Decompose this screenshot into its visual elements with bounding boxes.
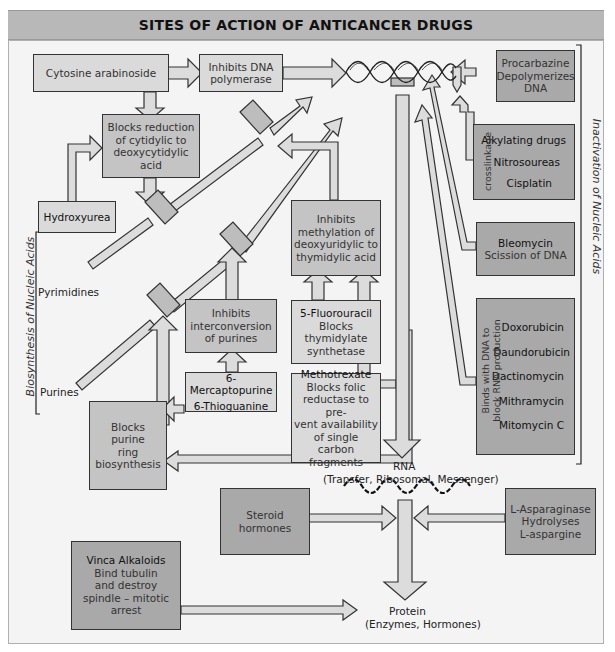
arrow-interconversion-up (218, 248, 246, 300)
box-blocks-reduction-cytidylic: Blocks reduction of cytidylic to deoxycy… (102, 114, 200, 178)
crosslink-notch-icon (453, 67, 461, 92)
label-protein: Protein (389, 605, 426, 617)
arrow-cytosine-to-polymerase (168, 59, 202, 87)
label-biosynthesis-nucleic-acids: Biosynthesis of Nucleic Acids (24, 232, 37, 402)
box-mercaptopurine-thioguanine: 6-Mercaptopurine 6-Thioguanine (185, 372, 277, 412)
label-rna-types: (Transfer, Ribosomal, Messenger) (323, 473, 499, 485)
box-cytosine-arabinoside: Cytosine arabinoside (33, 54, 169, 92)
box-bleomycin: Bleomycin Scission of DNA (476, 222, 575, 276)
arrow-steroid-to-protein (309, 506, 396, 530)
box-5-fluorouracil: 5-Fluorouracil Blocks thymidylate synthe… (291, 300, 381, 364)
binds-dna-label-line1: Binds with DNA to (480, 316, 491, 426)
label-inactivation-nucleic-acids: Inactivation of Nucleic Acids (590, 107, 603, 287)
arrow-dna-to-rna (384, 78, 420, 458)
label-pyrimidines: Pyrimidines (38, 286, 99, 298)
box-vinca-alkaloids: Vinca Alkaloids Bind tubulin and destroy… (71, 541, 181, 630)
box-inhibits-dna-polymerase: Inhibits DNA polymerase (199, 54, 283, 92)
box-blocks-purine-ring: Blocks purine ring biosynthesis (89, 401, 167, 490)
arrow-polymerase-to-dna (283, 59, 346, 87)
box-inhibits-methylation: Inhibits methylation of deoxyuridylic to… (291, 200, 381, 276)
box-inhibits-interconversion-purines: Inhibits interconversion of purines (185, 299, 277, 353)
arrow-vinca-to-protein (181, 600, 357, 620)
box-l-asparaginase: L-Asparaginase Hydrolyses L-aspargine (505, 488, 596, 555)
label-protein-types: (Enzymes, Hormones) (365, 618, 481, 630)
arrow-asparaginase-to-protein (414, 506, 505, 530)
crosslinkage-label: crosslinkage (482, 127, 493, 197)
box-procarbazine: Procarbazine Depolymerizes DNA (496, 50, 575, 102)
label-rna: RNA (393, 460, 415, 472)
box-steroid-hormones: Steroid hormones (220, 488, 310, 555)
box-hydroxyurea: Hydroxyurea (38, 201, 116, 233)
label-purines: Purines (40, 386, 79, 398)
box-methotrexate: Methotrexate Blocks folic reductase to p… (291, 373, 381, 463)
binds-dna-label-line2: block RNA production (491, 316, 502, 426)
right-bracket (576, 45, 581, 464)
